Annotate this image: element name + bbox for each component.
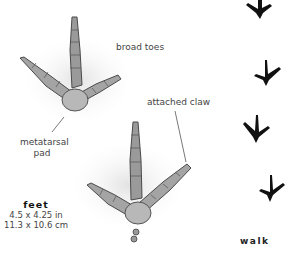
feet-size-inches: 4.5 x 4.25 in <box>4 210 68 220</box>
attached-claw-label: attached claw <box>147 97 210 108</box>
broad-toes-label: broad toes <box>116 42 164 53</box>
metatarsal-pad-label: metatarsal pad <box>20 137 64 159</box>
gait-label: walk <box>240 236 269 246</box>
feet-title: feet <box>4 199 68 210</box>
metatarsal-pad-label-line1: metatarsal <box>20 137 64 148</box>
metatarsal-pad-label-line2: pad <box>20 148 64 159</box>
feet-measurements: feet 4.5 x 4.25 in 11.3 x 10.6 cm <box>4 199 68 230</box>
feet-size-cm: 11.3 x 10.6 cm <box>4 220 68 230</box>
